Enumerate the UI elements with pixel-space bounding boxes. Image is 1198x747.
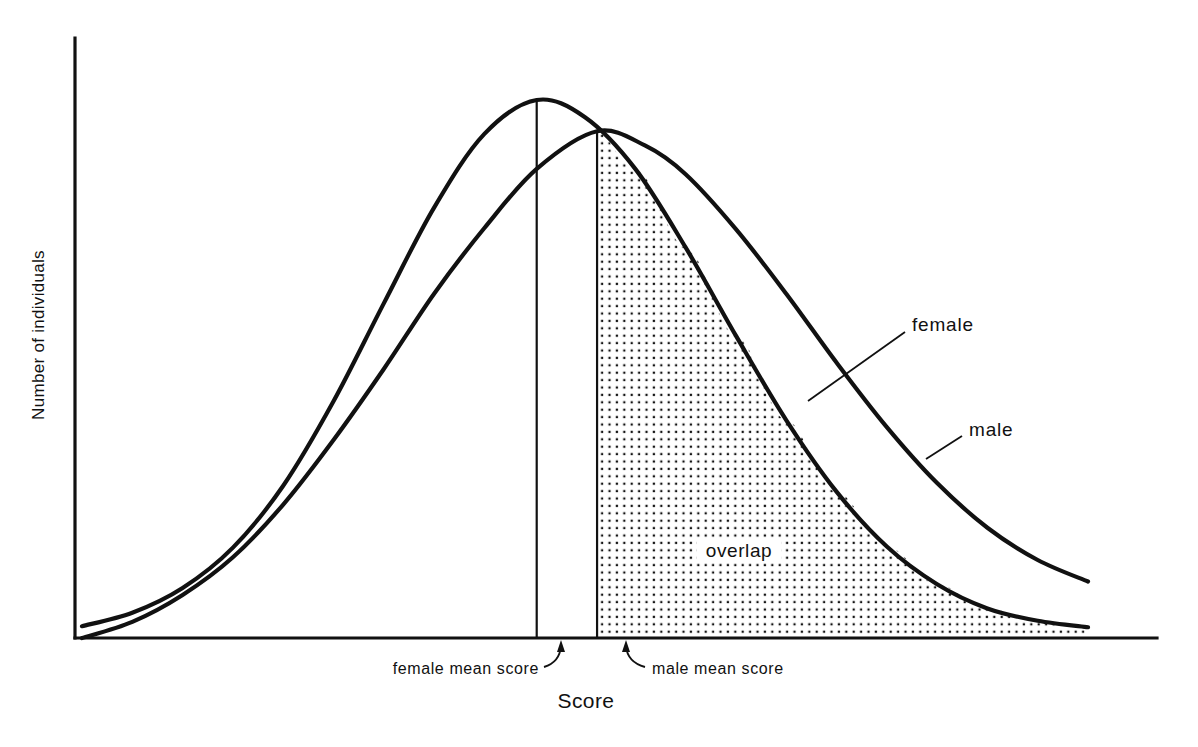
callout-leaders-group: [808, 332, 962, 459]
male-mean-arrowhead: [622, 640, 630, 652]
female-distribution-curve: [82, 99, 1088, 627]
axis-titles-group: Score Number of individuals: [29, 250, 614, 712]
mean-annotation-labels: female mean score male mean score: [393, 660, 784, 677]
curves-group: [82, 99, 1088, 638]
male-distribution-curve: [82, 130, 1088, 638]
female-mean-arrowhead: [557, 640, 565, 652]
male-callout-leader-line: [926, 436, 962, 459]
overlap-label-group: overlap: [697, 538, 781, 562]
chart-root: female male overlap female mean score ma…: [0, 0, 1198, 747]
overlap-label: overlap: [706, 540, 773, 561]
female-mean-score-label: female mean score: [393, 660, 539, 677]
series-callout-labels: female male: [912, 314, 1013, 440]
distribution-overlap-figure: female male overlap female mean score ma…: [0, 0, 1198, 747]
male-mean-score-label: male mean score: [652, 660, 784, 677]
male-series-label: male: [969, 419, 1013, 440]
overlap-region: [597, 131, 1088, 638]
y-axis-title: Number of individuals: [29, 250, 48, 420]
overlap-area-fill: [597, 131, 1088, 638]
x-axis-title: Score: [558, 689, 615, 712]
female-series-label: female: [912, 314, 974, 335]
mean-lines-group: [537, 100, 597, 638]
mean-annotation-arrows: [544, 640, 645, 667]
